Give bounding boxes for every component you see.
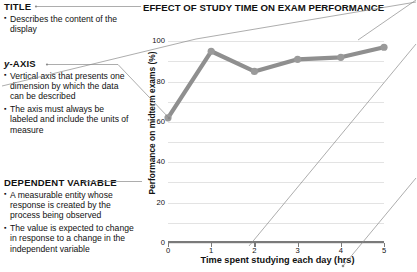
annotation-list-dependent-variable: A measurable entity whose response is cr… [4,190,134,254]
x-tick-mark [341,243,342,247]
annotation-block-y-axis: y-AXIS Vertical axis that presents one d… [4,59,134,138]
plot-area [168,21,384,243]
y-tick-label: 60 [139,117,165,126]
gridline [168,243,384,244]
annotation-bullet: A measurable entity whose response is cr… [4,190,134,221]
x-tick-mark [254,243,255,247]
annotation-heading-dependent-variable: DEPENDENT VARIABLE [4,178,134,189]
annotation-bullet: Vertical axis that presents one dimensio… [4,71,134,102]
series-polyline [168,47,384,118]
x-tick-mark [211,243,212,247]
annotation-heading-title: TITLE [4,2,134,13]
x-tick-label: 1 [201,246,221,255]
data-point-marker [164,114,171,121]
annotation-heading-rest-y: -AXIS [9,58,35,69]
y-tick-label: 40 [139,157,165,166]
y-tick-label: 100 [139,36,165,45]
x-tick-label: 5 [374,246,394,255]
data-point-marker [208,48,215,55]
annotation-column: TITLE Describes the content of the displ… [0,0,136,272]
y-tick-label: 80 [139,77,165,86]
data-point-marker [337,54,344,61]
annotation-list-y-axis: Vertical axis that presents one dimensio… [4,71,134,135]
data-point-marker [294,56,301,63]
figure-annotated-line-chart: TITLE Describes the content of the displ… [0,0,417,272]
annotation-bullet: The value is expected to change in respo… [4,223,134,254]
annotation-bullet: The axis must always be labeled and incl… [4,104,134,135]
series-line-performance [168,21,384,243]
y-tick-label: 20 [139,198,165,207]
x-tick-mark [298,243,299,247]
x-tick-label: 4 [331,246,351,255]
data-point-marker [380,44,387,51]
x-tick-mark [384,243,385,247]
annotation-block-title: TITLE Describes the content of the displ… [4,2,134,37]
annotation-block-dependent-variable: DEPENDENT VARIABLE A measurable entity w… [4,178,134,257]
x-tick-label: 2 [244,246,264,255]
x-tick-label: 0 [158,246,178,255]
chart: EFFECT OF STUDY TIME ON EXAM PERFORMANCE… [136,0,417,272]
data-point-marker [251,68,258,75]
x-tick-label: 3 [288,246,308,255]
x-tick-mark [168,243,169,247]
chart-title: EFFECT OF STUDY TIME ON EXAM PERFORMANCE [143,2,384,13]
annotation-heading-y-axis: y-AXIS [4,59,134,70]
annotation-bullet: Describes the content of the display [4,14,134,34]
annotation-list-title: Describes the content of the display [4,14,134,34]
x-axis-label: Time spent studying each day (hrs) [160,255,395,265]
